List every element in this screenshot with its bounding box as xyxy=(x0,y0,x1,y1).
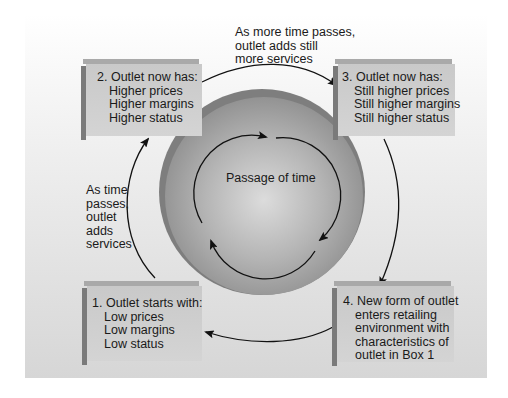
stage-box-4: 4. New form of outlet enters retailing e… xyxy=(337,286,454,362)
transition-left-line: As time xyxy=(86,184,132,198)
stage-box-1: 1. Outlet starts with: Low prices Low ma… xyxy=(87,286,202,361)
transition-label-left: As time passes, outlet adds services xyxy=(86,184,132,252)
transition-top-line: As more time passes, xyxy=(235,26,355,40)
box-heading: Outlet now has: xyxy=(356,70,443,84)
box-heading: Outlet now has: xyxy=(111,70,198,84)
box-line: Low status xyxy=(92,338,202,352)
center-label: Passage of time xyxy=(226,172,316,186)
box-line: Low prices xyxy=(92,311,202,325)
box-line: Low margins xyxy=(92,324,202,338)
box-line: enters retailing xyxy=(343,309,454,323)
transition-left-line: passes, xyxy=(86,198,132,212)
box-line: Higher prices xyxy=(97,85,202,99)
transition-left-line: outlet xyxy=(86,211,132,225)
box-line: Higher margins xyxy=(97,98,202,112)
stage-box-3: 3. Outlet now has: Still higher prices S… xyxy=(338,64,455,136)
transition-left-line: adds xyxy=(86,225,132,239)
box-line: Still higher prices xyxy=(342,85,455,99)
transition-left-line: services xyxy=(86,238,132,252)
box-line: Still higher margins xyxy=(342,98,455,112)
box-number: 4. xyxy=(343,294,353,308)
box-heading: Outlet starts with: xyxy=(106,296,203,310)
box-line: Higher status xyxy=(97,112,202,126)
box-line: Still higher status xyxy=(342,112,455,126)
box-line: outlet in Box 1 xyxy=(343,349,454,363)
box-line: characteristics of xyxy=(343,336,454,350)
box-heading: New form of outlet xyxy=(357,294,458,308)
stage-box-2: 2. Outlet now has: Higher prices Higher … xyxy=(86,64,202,136)
box-number: 3. xyxy=(342,70,352,84)
box-number: 1. xyxy=(92,296,102,310)
transition-top-line: outlet adds still xyxy=(235,40,355,54)
box-number: 2. xyxy=(97,70,107,84)
box-line: environment with xyxy=(343,322,454,336)
